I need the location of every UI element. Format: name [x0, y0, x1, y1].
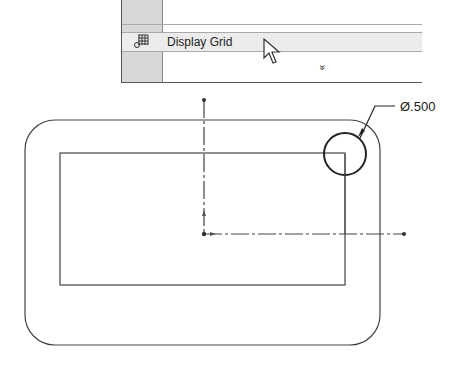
- diameter-dimension[interactable]: Ø.500: [400, 99, 435, 114]
- sketch-canvas[interactable]: [0, 0, 466, 365]
